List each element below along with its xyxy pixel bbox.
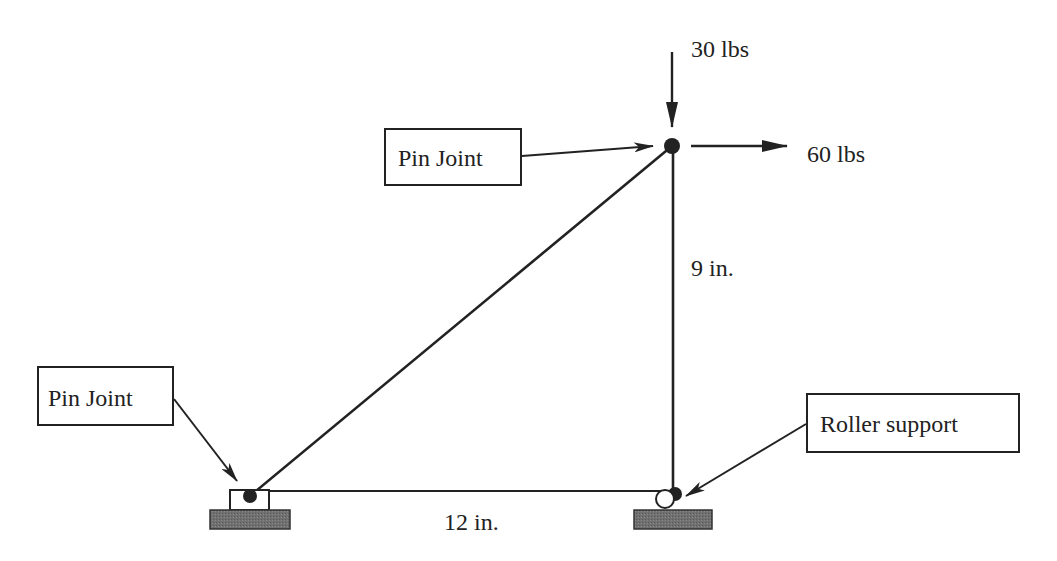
pin-support-left — [210, 489, 290, 529]
callout-top-pin-label: Pin Joint — [398, 145, 483, 171]
callout-roller: Roller support — [686, 394, 1019, 496]
ground-block-left — [210, 510, 290, 529]
callout-top-pin: Pin Joint — [385, 129, 653, 185]
load-label-horizontal: 60 lbs — [807, 141, 865, 167]
pin-joint-a — [243, 489, 257, 503]
member-diagonal — [250, 146, 672, 496]
roller-support-right — [634, 487, 712, 529]
callout-roller-label: Roller support — [820, 411, 958, 437]
pin-joint-b — [664, 138, 680, 154]
truss-diagram: 30 lbs 60 lbs 9 in. 12 in. Pin Joint Pin… — [0, 0, 1057, 561]
roller-wheel — [656, 490, 674, 508]
ground-block-right — [634, 510, 712, 529]
dimension-height: 9 in. — [691, 255, 734, 281]
callout-bottom-pin-label: Pin Joint — [48, 385, 133, 411]
dimension-width: 12 in. — [444, 509, 499, 535]
callout-bottom-pin: Pin Joint — [38, 367, 237, 481]
load-label-vertical: 30 lbs — [691, 36, 749, 62]
